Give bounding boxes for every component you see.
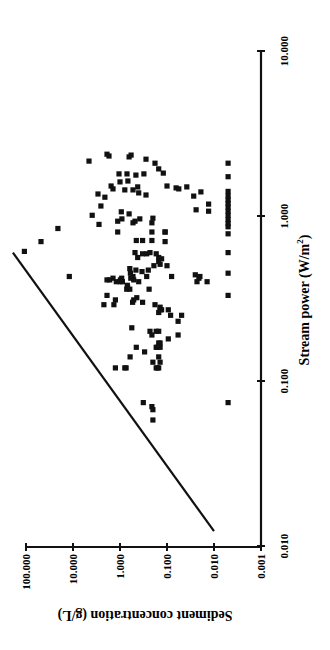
data-point xyxy=(67,274,72,279)
data-point xyxy=(95,191,100,196)
data-point xyxy=(90,213,95,218)
data-point xyxy=(98,203,103,208)
data-point xyxy=(135,184,140,189)
data-point xyxy=(115,229,120,234)
data-point xyxy=(114,279,119,284)
data-point xyxy=(158,262,163,267)
data-point xyxy=(140,238,145,243)
data-point xyxy=(226,161,231,166)
data-point xyxy=(206,202,211,207)
data-point xyxy=(169,274,174,279)
threshold-line xyxy=(13,253,214,532)
x-tick-label: 0.010 xyxy=(278,533,290,558)
data-point xyxy=(128,276,133,281)
scatter-chart: 0.0100.1001.00010.000 Stream power (W/m2… xyxy=(0,0,330,650)
data-point xyxy=(134,345,139,350)
data-point xyxy=(163,229,168,234)
data-point xyxy=(117,179,122,184)
data-point xyxy=(147,250,152,255)
data-point xyxy=(119,209,124,214)
data-point xyxy=(113,297,118,302)
data-point xyxy=(22,249,27,254)
y-axis-title: Sediment concentration (g/L) xyxy=(57,607,232,623)
data-point xyxy=(150,407,155,412)
data-point xyxy=(137,216,142,221)
data-point xyxy=(150,360,155,365)
y-axis: 0.0010.0100.1001.00010.000100.000 Sedime… xyxy=(20,543,267,623)
data-point xyxy=(149,220,154,225)
data-point xyxy=(136,190,141,195)
data-point xyxy=(120,279,125,284)
data-point xyxy=(168,313,173,318)
data-point xyxy=(226,293,231,298)
data-point xyxy=(194,207,199,212)
data-point xyxy=(226,189,231,194)
data-point xyxy=(155,345,160,350)
data-point xyxy=(163,239,168,244)
data-point xyxy=(156,329,161,334)
y-tick-label: 10.000 xyxy=(67,554,79,585)
data-point xyxy=(176,186,181,191)
data-point xyxy=(147,287,152,292)
data-point xyxy=(110,186,115,191)
data-point xyxy=(55,226,60,231)
y-tick-label: 0.001 xyxy=(255,554,267,579)
data-point xyxy=(133,268,138,273)
data-point xyxy=(139,269,144,274)
data-point xyxy=(127,211,132,216)
data-point xyxy=(144,274,149,279)
data-point xyxy=(102,195,107,200)
data-point xyxy=(150,417,155,422)
data-point xyxy=(122,187,127,192)
data-point xyxy=(161,171,166,176)
data-point xyxy=(164,183,169,188)
data-point xyxy=(125,178,130,183)
data-point xyxy=(151,263,156,268)
data-point xyxy=(152,302,157,307)
data-point xyxy=(129,153,134,158)
y-axis-ticks: 0.0010.0100.1001.00010.000100.000 xyxy=(20,543,267,590)
x-tick-label: 1.000 xyxy=(278,203,290,228)
data-point xyxy=(141,400,146,405)
data-point xyxy=(130,300,135,305)
data-point xyxy=(149,238,154,243)
data-point xyxy=(149,332,154,337)
data-point xyxy=(141,171,146,176)
data-point xyxy=(111,302,116,307)
data-point xyxy=(134,238,139,243)
data-point xyxy=(96,222,101,227)
data-point xyxy=(156,354,161,359)
data-point xyxy=(150,216,155,221)
data-point xyxy=(226,231,231,236)
data-point xyxy=(146,268,151,273)
data-point xyxy=(184,184,189,189)
y-tick-label: 0.010 xyxy=(208,554,220,579)
data-point xyxy=(133,173,138,178)
data-point xyxy=(127,266,132,271)
data-point xyxy=(113,365,118,370)
data-point xyxy=(205,279,210,284)
data-point xyxy=(106,153,111,158)
data-point xyxy=(159,307,164,312)
data-point xyxy=(115,219,120,224)
data-point xyxy=(116,171,121,176)
y-tick-label: 0.100 xyxy=(161,554,173,579)
data-point xyxy=(143,192,148,197)
data-point xyxy=(206,209,211,214)
data-point xyxy=(155,365,160,370)
x-axis: 0.0100.1001.00010.000 Stream power (W/m2… xyxy=(257,35,313,558)
data-point xyxy=(134,295,139,300)
data-point xyxy=(226,271,231,276)
x-tick-label: 10.000 xyxy=(278,35,290,66)
data-point xyxy=(149,229,154,234)
data-point xyxy=(226,400,231,405)
data-point xyxy=(132,250,137,255)
data-point xyxy=(128,354,133,359)
data-point xyxy=(179,313,184,318)
data-point xyxy=(38,239,43,244)
data-point xyxy=(101,302,106,307)
data-point xyxy=(159,256,164,261)
data-point xyxy=(164,263,169,268)
data-point xyxy=(176,319,181,324)
data-point xyxy=(152,161,157,166)
